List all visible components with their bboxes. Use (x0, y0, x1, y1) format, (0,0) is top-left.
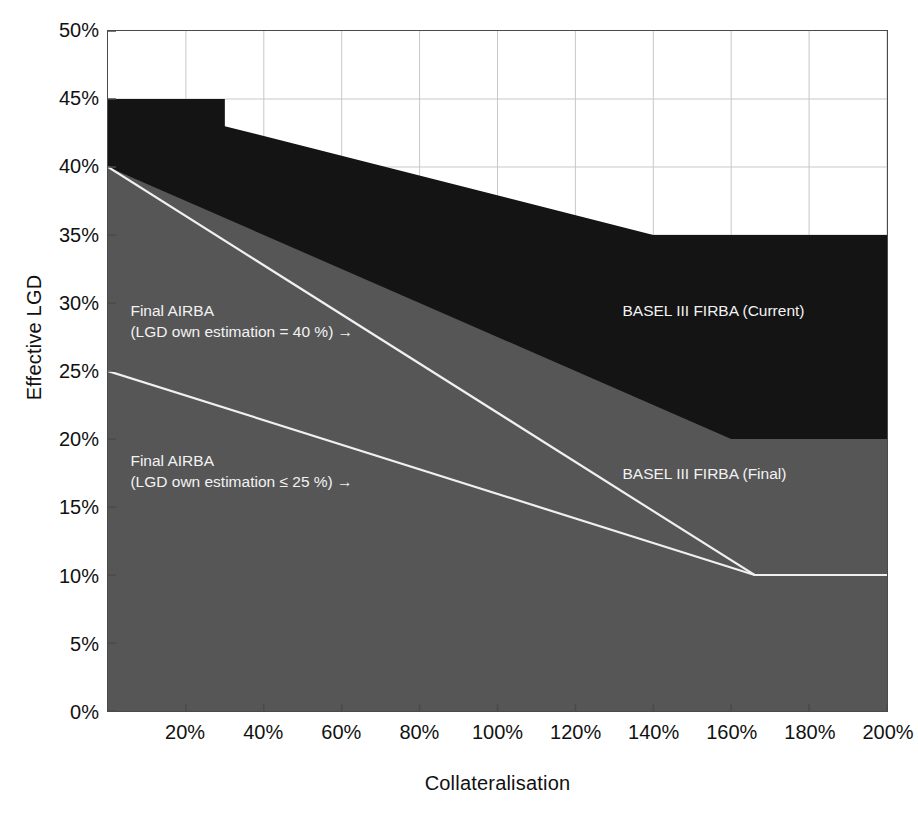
x-tick-label: 40% (218, 722, 308, 742)
plot-svg (108, 31, 887, 711)
y-tick-label: 50% (13, 20, 99, 40)
y-tick-label: 5% (13, 634, 99, 654)
x-tick-label: 140% (609, 722, 699, 742)
y-axis-tick-labels: 0%5%10%15%20%25%30%35%40%45%50% (0, 0, 99, 818)
x-tick-label: 80% (374, 722, 464, 742)
y-tick-label: 15% (13, 497, 99, 517)
y-tick-label: 20% (13, 429, 99, 449)
y-tick-label: 25% (13, 361, 99, 381)
x-tick-label: 60% (296, 722, 386, 742)
x-tick-label: 200% (843, 722, 918, 742)
x-tick-label: 120% (531, 722, 621, 742)
y-tick-label: 10% (13, 566, 99, 586)
plot-area (107, 30, 888, 712)
x-tick-label: 20% (140, 722, 230, 742)
y-tick-label: 0% (13, 702, 99, 722)
y-tick-label: 45% (13, 88, 99, 108)
y-tick-label: 35% (13, 225, 99, 245)
x-tick-label: 160% (687, 722, 777, 742)
y-tick-label: 30% (13, 293, 99, 313)
y-tick-label: 40% (13, 156, 99, 176)
x-tick-label: 180% (765, 722, 855, 742)
x-tick-label: 100% (453, 722, 543, 742)
x-axis-title: Collateralisation (107, 772, 888, 795)
